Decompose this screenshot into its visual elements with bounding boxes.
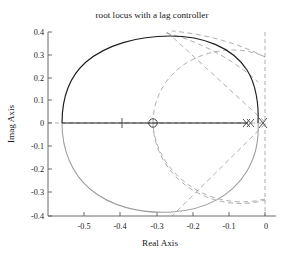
x-tick-label-2: -0.3: [151, 222, 164, 231]
y-axis-ticks: [48, 32, 52, 216]
root-locus-traces: [62, 36, 258, 212]
y-tick-label-1: 0.3: [34, 51, 44, 60]
x-tick-label-5: 0: [264, 222, 268, 231]
y-tick-label-3: 0.1: [34, 96, 44, 105]
y-tick-label-7: -0.3: [31, 188, 44, 197]
x-tick-label-3: -0.2: [187, 222, 200, 231]
y-tick-label-5: -0.1: [31, 142, 44, 151]
natural-frequency-arc-inner: [153, 123, 265, 204]
x-tick-label-4: -0.1: [223, 222, 236, 231]
y-tick-label-0: 0.4: [34, 28, 44, 37]
y-tick-label-4: 0: [40, 119, 44, 128]
x-axis-label: Real Axis: [142, 238, 178, 248]
natural-frequency-arc-outer: [166, 33, 258, 82]
axis-frame: [48, 32, 276, 216]
root-locus-figure: 0.4 0.3 0.2 0.1 0 -0.1 -0.2 -0.3 -0.4 -0…: [0, 0, 281, 265]
y-tick-label-2: 0.2: [34, 74, 44, 83]
root-locus-lower-branch: [62, 123, 258, 212]
damping-ray-lower: [172, 124, 265, 216]
y-tick-label-6: -0.2: [31, 165, 44, 174]
damping-circle-upper: [153, 50, 265, 123]
natural-frequency-arc-lower-outer: [153, 123, 265, 202]
plot-canvas: 0.4 0.3 0.2 0.1 0 -0.1 -0.2 -0.3 -0.4 -0…: [0, 0, 281, 265]
natural-frequency-arc-upper-long: [172, 31, 265, 57]
chart-title: root locus with a lag controller: [95, 10, 208, 20]
y-axis-tick-labels: 0.4 0.3 0.2 0.1 0 -0.1 -0.2 -0.3 -0.4: [31, 28, 44, 221]
x-axis-tick-labels: -0.5 -0.4 -0.3 -0.2 -0.1 0: [78, 222, 269, 231]
x-tick-label-0: -0.5: [78, 222, 91, 231]
x-tick-label-1: -0.4: [114, 222, 127, 231]
y-axis-label: Imag Axis: [6, 105, 16, 143]
y-tick-label-8: -0.4: [31, 212, 44, 221]
root-locus-upper-branch: [62, 36, 258, 123]
